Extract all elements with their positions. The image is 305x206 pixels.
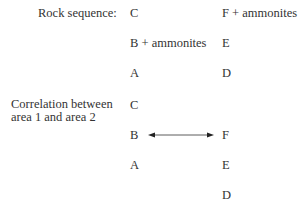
correlation-double-arrow-icon	[148, 130, 214, 140]
correlation-area2-bottom: D	[222, 188, 231, 202]
area2-layer-top: F + ammonites	[222, 6, 297, 20]
correlation-area1-bottom: A	[130, 158, 139, 172]
area2-layer-bottom: D	[222, 66, 231, 80]
area1-layer-middle: B + ammonites	[130, 36, 207, 50]
rock-sequence-label: Rock sequence:	[38, 6, 117, 20]
area1-layer-bottom: A	[130, 66, 139, 80]
correlation-area2-middle: E	[222, 158, 230, 172]
area1-layer-top: C	[130, 6, 138, 20]
correlation-area1-top: C	[130, 98, 138, 112]
correlation-label-line1: Correlation between	[11, 97, 113, 111]
correlation-label: Correlation between area 1 and area 2	[11, 98, 123, 124]
correlation-area2-top: F	[222, 128, 229, 142]
area2-layer-middle: E	[222, 36, 230, 50]
correlation-label-line2: area 1 and area 2	[11, 110, 96, 124]
correlation-area1-middle: B	[130, 128, 138, 142]
